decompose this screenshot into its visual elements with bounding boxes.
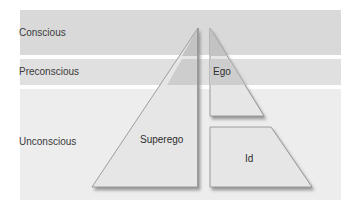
- superego-shape: [92, 28, 198, 187]
- level-label-conscious: Conscious: [19, 27, 66, 38]
- id-shape: [210, 127, 312, 187]
- level-label-unconscious: Unconscious: [19, 136, 76, 147]
- structure-label-id: Id: [245, 153, 253, 164]
- level-label-preconscious: Preconscious: [19, 66, 79, 77]
- structure-label-ego: Ego: [213, 66, 231, 77]
- structure-label-superego: Superego: [140, 134, 183, 145]
